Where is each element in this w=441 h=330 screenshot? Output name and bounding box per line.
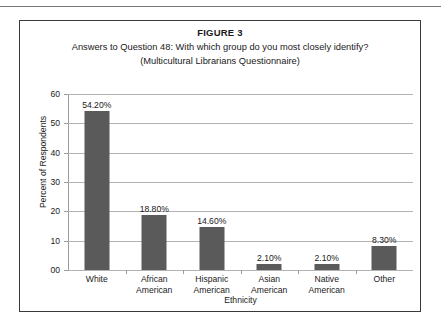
x-axis-tick-label-line: African [126,274,184,285]
y-axis-tick-labels: 60504030201000 [38,94,60,271]
figure-caption-line-2: (Multicultural Librarians Questionnaire) [20,54,420,68]
bar-slot: 8.30% [356,94,414,270]
bar[interactable]: 2.10% [257,264,282,270]
bar-slot: 2.10% [298,94,356,270]
x-axis-tick-label-line: Native [298,274,356,285]
bar[interactable]: 2.10% [314,264,339,270]
x-axis-tick-label-line: American [241,285,299,296]
x-axis-tick-label-line: American [183,285,241,296]
x-axis-tick-label: AfricanAmerican [126,274,184,295]
figure-caption: FIGURE 3 Answers to Question 48: With wh… [20,26,420,68]
x-axis-tick-label-line: White [68,274,126,285]
y-axis-tick-label: 00 [38,266,60,274]
plot-area: 54.20%18.80%14.60%2.10%2.10%8.30% [68,94,413,271]
figure-caption-line-1: Answers to Question 48: With which group… [20,40,420,54]
y-axis-tick-label: 40 [38,149,60,157]
bar-value-label: 8.30% [372,235,396,245]
bar-slot: 2.10% [241,94,299,270]
bar-value-label: 2.10% [315,253,339,263]
bar[interactable]: 54.20% [84,111,109,270]
figure-container: FIGURE 3 Answers to Question 48: With wh… [19,20,421,312]
bar-value-label: 18.80% [140,204,169,214]
x-axis-title: Ethnicity [68,295,413,305]
x-axis-tick-label-line: Hispanic [183,274,241,285]
x-axis-tick-label: NativeAmerican [298,274,356,295]
x-axis-tick-label: Other [356,274,414,285]
x-axis-tick-label-line: American [126,285,184,296]
bar-slot: 14.60% [183,94,241,270]
y-axis-tick-label: 50 [38,119,60,127]
bar-slot: 54.20% [68,94,126,270]
bar-slot: 18.80% [126,94,184,270]
bar-value-label: 54.20% [82,100,111,110]
x-axis-tick-label-line: American [298,285,356,296]
bar[interactable]: 14.60% [199,227,224,270]
y-axis-tick-label: 20 [38,207,60,215]
bar[interactable]: 8.30% [372,246,397,270]
bar[interactable]: 18.80% [142,215,167,270]
y-axis-tick-label: 60 [38,90,60,98]
bar-value-label: 14.60% [197,216,226,226]
x-axis-tick-label-line: Other [356,274,414,285]
x-axis-tick-label: AsianAmerican [241,274,299,295]
x-axis-tick-label: White [68,274,126,285]
y-axis-tick-mark [64,270,68,271]
y-axis-tick-label: 10 [38,237,60,245]
bar-chart: Percent of Respondents 60504030201000 54… [20,71,422,313]
x-axis-tick-label-line: Asian [241,274,299,285]
page-top-rule [0,6,441,7]
bar-value-label: 2.10% [257,253,281,263]
figure-number-label: FIGURE 3 [20,26,420,40]
y-axis-tick-label: 30 [38,178,60,186]
x-axis-tick-label: HispanicAmerican [183,274,241,295]
